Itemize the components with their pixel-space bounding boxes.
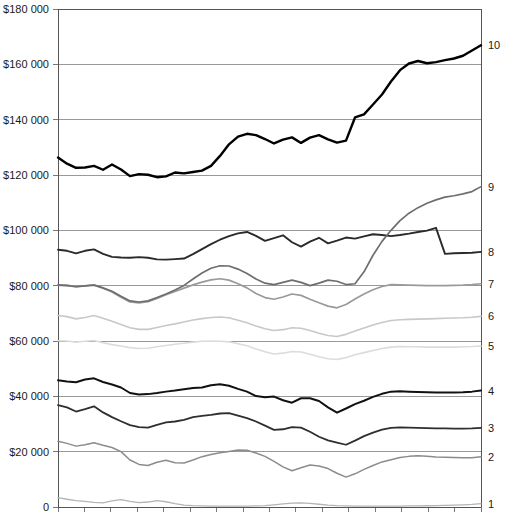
series-end-label-3: 3 [488,422,494,434]
series-end-label-7: 7 [488,278,494,290]
y-axis-tick-labels: 0$20 000$40 000$60 000$80 000$100 000$12… [3,3,58,513]
x-axis-ticks [58,507,481,512]
y-axis-tick-label: $160 000 [3,58,49,70]
series-line-3 [58,405,481,445]
series-line-10 [58,45,481,177]
y-axis-tick-label: $20 000 [9,446,49,458]
series-end-label-8: 8 [488,246,494,258]
y-axis-tick-label: $100 000 [3,224,49,236]
y-axis-tick-label: $60 000 [9,335,49,347]
series-end-label-2: 2 [488,451,494,463]
series-end-label-9: 9 [488,181,494,193]
series-line-2 [58,441,481,477]
series-line-1 [58,498,481,507]
series-end-label-10: 10 [488,39,500,51]
y-axis-tick-label: $80 000 [9,280,49,292]
series-line-6 [58,316,481,337]
data-series-group [58,45,481,506]
series-end-labels: 12345678910 [488,39,500,509]
series-end-label-4: 4 [488,385,494,397]
y-axis-tick-label: 0 [43,501,49,513]
chart-svg: 0$20 000$40 000$60 000$80 000$100 000$12… [0,0,508,520]
y-axis-tick-label: $180 000 [3,3,49,15]
y-axis-tick-label: $140 000 [3,114,49,126]
line-chart-container: 0$20 000$40 000$60 000$80 000$100 000$12… [0,0,508,520]
series-line-5 [58,340,481,359]
series-end-label-1: 1 [488,498,494,510]
series-end-label-6: 6 [488,310,494,322]
y-axis-tick-label: $120 000 [3,169,49,181]
y-axis-tick-label: $40 000 [9,390,49,402]
series-line-4 [58,378,481,412]
series-line-8 [58,228,481,260]
series-end-label-5: 5 [488,340,494,352]
